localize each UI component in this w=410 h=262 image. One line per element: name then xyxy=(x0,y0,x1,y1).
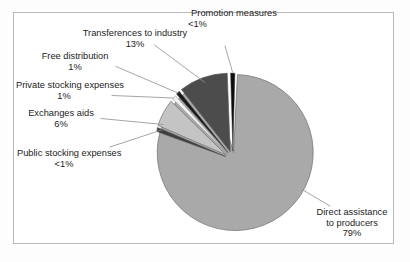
leader-line-exchanges-aids xyxy=(101,119,163,125)
slice-label-exchanges-aids: Exchanges aids 6% xyxy=(24,108,98,129)
slice-label-direct-assistance-title-line2: to producers xyxy=(315,218,389,229)
slice-label-free-distribution: Free distribution 1% xyxy=(35,51,115,72)
slice-label-exchanges-aids-percent: 6% xyxy=(24,119,98,130)
slice-label-transferences-to-industry-percent: 13% xyxy=(76,39,194,50)
slice-label-private-stocking-expenses: Private stocking expenses 1% xyxy=(16,80,112,101)
leader-line-direct-assistance xyxy=(303,190,330,206)
slice-label-free-distribution-percent: 1% xyxy=(35,62,115,73)
slice-label-public-stocking-expenses-percent: <1% xyxy=(17,159,111,170)
leader-line-promotion-measures xyxy=(225,46,233,72)
slice-label-promotion-measures-title: Promotion measures xyxy=(176,8,292,19)
slice-label-free-distribution-title: Free distribution xyxy=(35,51,115,62)
slice-label-public-stocking-expenses: Public stocking expenses <1% xyxy=(17,148,111,169)
leader-line-public-stocking-expenses xyxy=(110,130,162,147)
slice-label-promotion-measures: Promotion measures <1% xyxy=(176,8,292,29)
slice-label-direct-assistance-percent: 79% xyxy=(315,228,389,239)
leader-line-private-stocking-expenses xyxy=(112,96,174,99)
slice-label-private-stocking-expenses-percent: 1% xyxy=(16,91,112,102)
slice-label-exchanges-aids-title: Exchanges aids xyxy=(24,108,98,119)
slice-label-direct-assistance: Direct assistance to producers 79% xyxy=(315,207,389,239)
slice-label-direct-assistance-title: Direct assistance xyxy=(315,207,389,218)
leader-line-free-distribution xyxy=(116,67,178,94)
pie-chart-figure: Promotion measures <1% Transferences to … xyxy=(0,0,410,262)
slice-label-public-stocking-expenses-title: Public stocking expenses xyxy=(17,148,111,159)
slice-label-transferences-to-industry: Transferences to industry 13% xyxy=(76,28,194,49)
leader-line-transferences-to-industry xyxy=(155,45,206,83)
slice-label-private-stocking-expenses-title: Private stocking expenses xyxy=(16,80,112,91)
slice-label-transferences-to-industry-title: Transferences to industry xyxy=(76,28,194,39)
